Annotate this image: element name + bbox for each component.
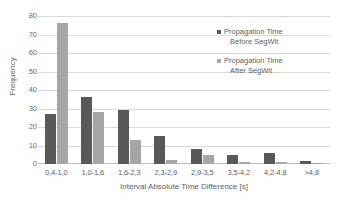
legend-label-before: Propagation Time Before SegWit	[224, 27, 283, 47]
bar-group	[111, 16, 148, 164]
bar	[191, 149, 202, 164]
y-axis-tick-label: 80	[21, 12, 37, 20]
bar	[227, 155, 238, 164]
bar-group	[148, 16, 185, 164]
y-axis-tick-label: 60	[21, 49, 37, 57]
x-axis-tick-labels: 0,4-1,01,0-1,61,6-2,32,3-2,92,9-3,53,5-4…	[38, 168, 330, 177]
bar-group	[184, 16, 221, 164]
legend-label-after-line1: Propagation Time	[224, 56, 283, 65]
bar	[81, 97, 92, 164]
bar	[130, 140, 141, 164]
legend-label-after: Propagation Time After SegWit	[224, 56, 283, 76]
bar	[264, 153, 275, 164]
x-axis-tick-label: 3,5-4,2	[221, 168, 258, 177]
legend-swatch-icon-after	[217, 59, 221, 63]
legend-entry-before: Propagation Time Before SegWit	[217, 27, 329, 47]
legend-entry-after: Propagation Time After SegWit	[217, 56, 329, 76]
bar	[203, 155, 214, 164]
bar	[166, 160, 177, 164]
legend-swatch-icon-before	[217, 30, 221, 34]
bar	[118, 110, 129, 164]
y-axis-title: Frequency	[8, 34, 17, 120]
bar	[300, 161, 311, 164]
x-axis-tick-label: 4,2-4,8	[257, 168, 294, 177]
bar	[154, 136, 165, 164]
x-axis-tick-label: 1,6-2,3	[111, 168, 148, 177]
bar	[276, 162, 287, 164]
bar	[93, 112, 104, 164]
x-axis-title: Interval Absolute Time Difference [s]	[38, 182, 330, 191]
legend: Propagation Time Before SegWit Propagati…	[217, 27, 329, 85]
legend-label-before-line1: Propagation Time	[224, 27, 283, 36]
legend-label-before-line2: Before SegWit	[224, 37, 283, 47]
x-axis-tick-label: 2,3-2,9	[148, 168, 185, 177]
legend-label-after-line2: After SegWit	[224, 66, 283, 76]
y-axis-tick-label: 30	[21, 105, 37, 113]
bar-chart: Frequency 01020304050607080 0,4-1,01,0-1…	[0, 0, 338, 206]
y-axis-tick-label: 10	[21, 142, 37, 150]
x-axis-tick-label: 0,4-1,0	[38, 168, 75, 177]
bar	[239, 162, 250, 164]
y-axis-tick-label: 70	[21, 31, 37, 39]
bar	[57, 23, 68, 164]
x-axis-tick-label: >4,8	[294, 168, 331, 177]
x-axis-tick-label: 1,0-1,6	[75, 168, 112, 177]
y-axis-tick-label: 40	[21, 86, 37, 94]
bar	[45, 114, 56, 164]
x-axis-tick-label: 2,9-3,5	[184, 168, 221, 177]
y-axis-tick-label: 0	[21, 160, 37, 168]
y-axis-tick-label: 50	[21, 68, 37, 76]
bar-group	[75, 16, 112, 164]
y-axis-tick-label: 20	[21, 123, 37, 131]
bar-group	[38, 16, 75, 164]
bar	[312, 163, 323, 164]
